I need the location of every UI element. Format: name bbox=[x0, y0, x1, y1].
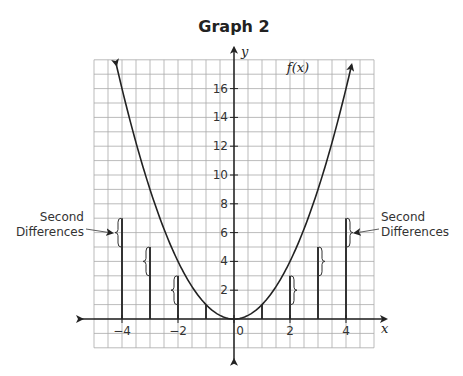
x-axis-label: x bbox=[381, 321, 389, 336]
x-tick-label: 4 bbox=[342, 324, 350, 338]
y-tick-label: 16 bbox=[213, 82, 228, 96]
y-tick-label: 14 bbox=[213, 110, 228, 124]
y-axis-label: y bbox=[240, 44, 249, 59]
x-tick-label: −4 bbox=[113, 324, 131, 338]
svg-text:Differences: Differences bbox=[16, 225, 84, 239]
chart-title: Graph 2 bbox=[198, 17, 269, 36]
y-tick-label: 2 bbox=[220, 283, 228, 297]
x-tick-label: 2 bbox=[286, 324, 294, 338]
svg-text:Second: Second bbox=[40, 210, 84, 224]
annotation-left: Second Differences bbox=[16, 210, 112, 239]
x-tick-label: 0 bbox=[236, 324, 244, 338]
y-tick-label: 4 bbox=[220, 254, 228, 268]
x-tick-label: −2 bbox=[169, 324, 187, 338]
svg-text:Second: Second bbox=[381, 210, 425, 224]
y-tick-label: 8 bbox=[220, 197, 228, 211]
y-tick-label: 10 bbox=[213, 168, 228, 182]
y-tick-label: 6 bbox=[220, 226, 228, 240]
graph-2-chart: Graph 2 −4−2024246810121416 f(x) y x Sec… bbox=[0, 0, 463, 376]
svg-text:Differences: Differences bbox=[381, 225, 449, 239]
annotation-right: Second Differences bbox=[355, 210, 449, 239]
tick-labels: −4−2024246810121416 bbox=[113, 82, 350, 338]
y-tick-label: 12 bbox=[213, 139, 228, 153]
function-label: f(x) bbox=[286, 60, 309, 75]
